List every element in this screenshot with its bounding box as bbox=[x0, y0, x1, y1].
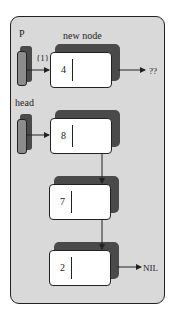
arrows-layer bbox=[0, 0, 178, 322]
